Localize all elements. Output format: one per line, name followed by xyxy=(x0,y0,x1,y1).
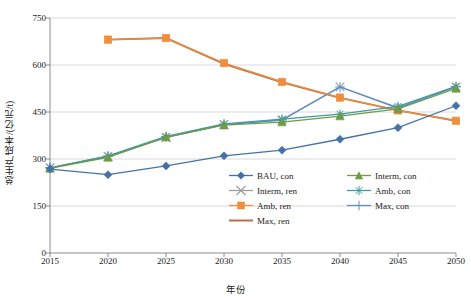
asterisk-marker-icon xyxy=(346,184,372,197)
legend-label: Amb, ren xyxy=(257,201,291,211)
square-marker-icon xyxy=(228,199,254,212)
plot-area xyxy=(0,0,471,303)
legend-item-amb-ren[interactable]: Amb, ren xyxy=(228,199,346,212)
legend-row: Interm, renAmb, con xyxy=(228,183,464,198)
legend-item-interm-ren[interactable]: Interm, ren xyxy=(228,184,346,197)
data-point xyxy=(452,102,460,110)
diamond-marker-icon xyxy=(228,169,254,182)
chart-legend: BAU, conInterm, conInterm, renAmb, conAm… xyxy=(228,168,464,228)
legend-label: Max, con xyxy=(375,201,409,211)
legend-label: Interm, con xyxy=(375,171,416,181)
data-point xyxy=(394,124,402,132)
legend-row: Max, ren xyxy=(228,213,464,228)
data-point xyxy=(104,171,112,179)
plus-marker-icon xyxy=(346,199,372,212)
series-amb-ren xyxy=(104,34,459,124)
legend-item-max-ren[interactable]: Max, ren xyxy=(228,214,346,227)
legend-item-interm-con[interactable]: Interm, con xyxy=(346,169,464,182)
legend-label: Max, ren xyxy=(257,216,290,226)
data-point xyxy=(162,34,169,41)
legend-label: Amb, con xyxy=(375,186,411,196)
data-point xyxy=(278,78,285,85)
x-marker-icon xyxy=(228,184,254,197)
data-point xyxy=(104,36,111,43)
data-point xyxy=(220,59,227,66)
legend-row: BAU, conInterm, con xyxy=(228,168,464,183)
data-point xyxy=(336,94,343,101)
data-point xyxy=(278,146,286,154)
legend-item-max-con[interactable]: Max, con xyxy=(346,199,464,212)
legend-label: BAU, con xyxy=(257,171,294,181)
data-point xyxy=(162,162,170,170)
legend-row: Amb, renMax, con xyxy=(228,198,464,213)
data-point xyxy=(452,117,459,124)
legend-item-amb-con[interactable]: Amb, con xyxy=(346,184,464,197)
legend-label: Interm, ren xyxy=(257,186,297,196)
data-point xyxy=(336,135,344,143)
series-line xyxy=(50,106,456,175)
chart-container: 总生产成本/(亿元/t) 年份 0150300450600750 2015202… xyxy=(0,0,471,303)
triangle-marker-icon xyxy=(346,169,372,182)
legend-item-bau-con[interactable]: BAU, con xyxy=(228,169,346,182)
line-marker-icon xyxy=(228,214,254,227)
